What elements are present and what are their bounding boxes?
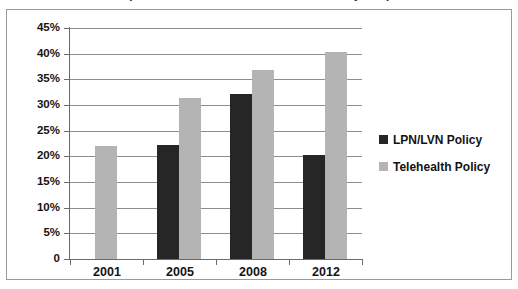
y-axis-label: 5% — [8, 227, 60, 239]
y-axis-label: 20% — [8, 150, 60, 162]
chart-title-clipped: Comparison of Telehealth and LPN/LVN Pol… — [0, 0, 518, 3]
legend-item: LPN/LVN Policy — [379, 133, 509, 146]
x-axis-label: 2008 — [216, 266, 290, 280]
legend-swatch-icon — [379, 135, 388, 144]
y-axis-label-wrap: 15% — [8, 176, 60, 188]
bar — [325, 52, 347, 259]
y-axis-label: 40% — [8, 48, 60, 60]
bar — [230, 94, 252, 259]
x-axis-label: 2012 — [289, 266, 363, 280]
y-axis-label: 15% — [8, 176, 60, 188]
legend-label: Telehealth Policy — [393, 161, 490, 173]
y-axis-label-wrap: 20% — [8, 150, 60, 162]
bar — [179, 98, 201, 259]
chart-figure: Comparison of Telehealth and LPN/LVN Pol… — [0, 0, 518, 289]
x-axis-label: 2005 — [143, 266, 217, 280]
y-axis-label: 10% — [8, 202, 60, 214]
y-axis-label-wrap: 25% — [8, 125, 60, 137]
bar — [252, 70, 274, 259]
x-axis-line — [69, 259, 363, 260]
bar — [157, 145, 179, 259]
y-axis-label: 25% — [8, 125, 60, 137]
y-axis-label-wrap: 45% — [8, 22, 60, 34]
chart-legend: LPN/LVN PolicyTelehealth Policy — [379, 133, 509, 187]
legend-swatch-icon — [379, 162, 388, 171]
y-axis-label-wrap: 10% — [8, 202, 60, 214]
y-axis-label-wrap: 0 — [8, 253, 60, 265]
y-axis-label-wrap: 5% — [8, 227, 60, 239]
legend-label: LPN/LVN Policy — [393, 134, 482, 146]
y-axis-label: 30% — [8, 99, 60, 111]
plot-area — [70, 28, 362, 259]
legend-item: Telehealth Policy — [379, 160, 509, 173]
x-axis-label: 2001 — [70, 266, 144, 280]
bar — [95, 146, 117, 259]
bar — [303, 155, 325, 259]
y-axis-label: 0 — [8, 253, 60, 265]
y-axis-label-wrap: 30% — [8, 99, 60, 111]
y-axis-label-wrap: 35% — [8, 73, 60, 85]
y-axis-label: 45% — [8, 22, 60, 34]
y-axis-label: 35% — [8, 73, 60, 85]
y-axis-label-wrap: 40% — [8, 48, 60, 60]
